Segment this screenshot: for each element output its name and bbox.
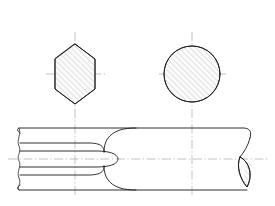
lower-transition-curve — [104, 166, 136, 190]
circle-section-view — [162, 44, 222, 104]
body-bottom-edge — [18, 185, 247, 190]
circle-hatching — [162, 44, 222, 104]
technical-drawing-canvas — [0, 0, 275, 206]
right-break-lobe — [234, 154, 258, 192]
body-top-edge — [18, 128, 251, 138]
upper-transition-curve — [104, 128, 136, 152]
hexagon-section-view — [53, 42, 99, 106]
centerlines-group — [8, 32, 268, 196]
side-elevation-view — [18, 128, 258, 192]
hexagon-hatching — [53, 42, 99, 106]
drawing-svg — [0, 0, 275, 206]
